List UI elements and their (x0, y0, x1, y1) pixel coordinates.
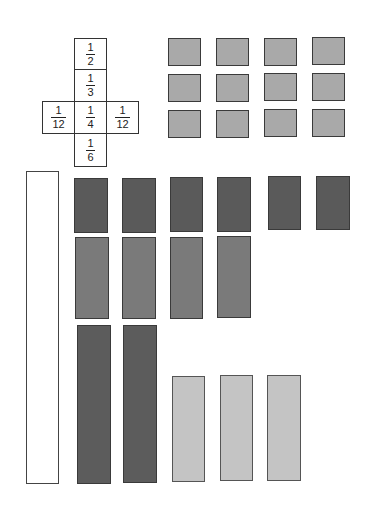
grid-tile (168, 110, 201, 138)
light-tile (267, 375, 301, 481)
medium-tile (122, 237, 156, 319)
grid-tile (168, 38, 201, 66)
tall-dark-tile (123, 325, 157, 483)
fraction-cell-quarter: 14 (74, 101, 107, 134)
medium-tile (217, 236, 251, 318)
dark-tile (268, 176, 301, 230)
dark-tile (316, 176, 350, 230)
grid-tile (312, 109, 345, 137)
fraction-cell-twelfth-right: 112 (106, 101, 139, 134)
grid-tile (312, 37, 345, 65)
dark-tile (122, 178, 156, 233)
grid-tile (216, 38, 249, 66)
grid-tile (216, 110, 249, 138)
fraction-cell-twelfth-left: 112 (42, 101, 75, 134)
grid-tile (264, 109, 297, 137)
tall-dark-tile (77, 325, 111, 484)
grid-tile (168, 74, 201, 102)
grid-tile (312, 73, 345, 101)
grid-tile (264, 38, 297, 66)
dark-tile (217, 177, 251, 232)
whole-bar (26, 171, 59, 484)
medium-tile (75, 237, 109, 319)
light-tile (172, 376, 205, 482)
fraction-cell-sixth: 16 (74, 133, 107, 167)
dark-tile (74, 178, 108, 233)
fraction-cell-third: 13 (74, 69, 107, 102)
grid-tile (264, 73, 297, 101)
grid-tile (216, 74, 249, 102)
dark-tile (170, 177, 203, 232)
light-tile (220, 375, 253, 481)
fraction-cell-half: 12 (74, 38, 107, 70)
medium-tile (170, 237, 203, 319)
